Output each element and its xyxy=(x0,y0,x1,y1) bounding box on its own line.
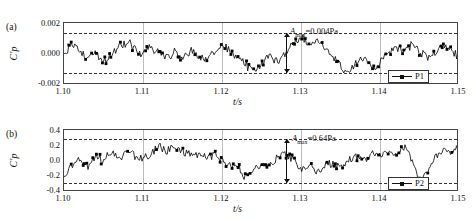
legend-line-marker-icon xyxy=(392,73,412,80)
panel-b-amplitude-arrow xyxy=(286,139,287,183)
panel-a-amplitude-arrow xyxy=(286,33,287,73)
panel-b-annotation-sub: max xyxy=(297,139,307,145)
panel-a-annotation-value: =0.004Pa xyxy=(306,26,338,36)
panel-a-ytick-1: 0.000 xyxy=(2,49,60,57)
panel-a-xlabel: t/s xyxy=(0,97,475,107)
panel-a-xtick-0: 1.10 xyxy=(56,86,71,96)
panel-b-xtick-1: 1.11 xyxy=(135,193,150,203)
panel-b-legend-label: P2 xyxy=(415,179,424,188)
panel-b-xtick-3: 1.13 xyxy=(293,193,308,203)
panel-a-legend-label: P1 xyxy=(415,72,424,81)
panel-b-ytick-column: 0.4 0.2 0.0 -0.2 -0.4 xyxy=(0,115,60,190)
panel-b: (b) C'p 0.4 0.2 0.0 -0.2 -0.4 Amax= xyxy=(0,115,475,218)
panel-b-xtick-5: 1.15 xyxy=(451,193,466,203)
panel-b-ytick-0: 0.4 xyxy=(2,126,60,134)
panel-b-xlabel-text: t/s xyxy=(233,204,242,214)
legend-line-marker-icon xyxy=(392,180,412,187)
panel-b-annotation-value: =0.64Pa xyxy=(308,133,336,143)
panel-b-annotation: Amax=0.64Pa xyxy=(292,133,336,145)
panel-a-xtick-1: 1.11 xyxy=(135,86,150,96)
panel-a-xtick-3: 1.13 xyxy=(293,86,308,96)
panel-b-xtick-0: 1.10 xyxy=(56,193,71,203)
panel-b-xlabel: t/s xyxy=(0,204,475,214)
panel-a-ytick-0: 0.002 xyxy=(2,19,60,27)
panel-b-ytick-2: 0.0 xyxy=(2,156,60,164)
figure-container: (a) C'p 0.002 0.000 -0.002 Amax=0.004Pa xyxy=(0,0,475,220)
panel-b-legend[interactable]: P2 xyxy=(388,177,429,190)
panel-a-ytick-column: 0.002 0.000 -0.002 xyxy=(0,8,60,83)
panel-a-xtick-2: 1.12 xyxy=(214,86,229,96)
panel-b-xtick-2: 1.12 xyxy=(214,193,229,203)
panel-a-xtick-5: 1.15 xyxy=(451,86,466,96)
panel-b-ytick-3: -0.2 xyxy=(2,171,60,179)
panel-b-xtick-4: 1.14 xyxy=(372,193,387,203)
panel-a: (a) C'p 0.002 0.000 -0.002 Amax=0.004Pa xyxy=(0,8,475,111)
panel-a-annotation-sub: max xyxy=(295,32,305,38)
panel-a-xtick-4: 1.14 xyxy=(372,86,387,96)
panel-a-legend[interactable]: P1 xyxy=(388,70,429,83)
panel-a-annotation: Amax=0.004Pa xyxy=(290,26,338,38)
panel-b-ytick-1: 0.2 xyxy=(2,141,60,149)
panel-a-xlabel-text: t/s xyxy=(233,97,242,107)
